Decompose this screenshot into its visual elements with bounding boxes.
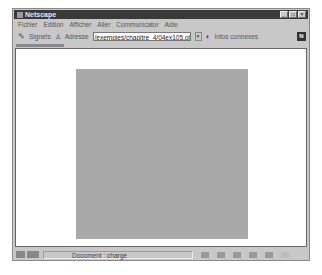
window-title: Netscape: [25, 11, 56, 18]
status-bar: Document : chargé: [14, 249, 308, 260]
menu-afficher[interactable]: Afficher: [69, 20, 91, 29]
status-text: Document : chargé: [43, 251, 193, 259]
connection-icon: [27, 251, 39, 258]
netscape-logo[interactable]: N: [297, 32, 306, 41]
maximize-button[interactable]: □: [289, 11, 297, 18]
menu-bar: Fichier Edition Afficher Aller Communica…: [14, 20, 308, 29]
composer-icon[interactable]: [265, 252, 273, 258]
menu-fichier[interactable]: Fichier: [18, 20, 38, 29]
bookmarks-icon[interactable]: ✎: [18, 32, 25, 41]
title-bar: Netscape _ □ ×: [14, 10, 308, 19]
location-toolbar: ✎ Signets ♙ Adresse /exemples/chapitre_4…: [14, 30, 308, 43]
menu-aller[interactable]: Aller: [97, 20, 110, 29]
mail-icon[interactable]: [233, 252, 241, 258]
address-label: Adresse: [65, 33, 89, 40]
menu-edition[interactable]: Edition: [44, 20, 64, 29]
close-button[interactable]: ×: [298, 11, 306, 18]
netscape-app-icon: [17, 12, 23, 18]
menu-aide[interactable]: Aide: [165, 20, 178, 29]
bookmarks-button[interactable]: Signets: [29, 33, 51, 40]
url-dropdown-button[interactable]: ▼: [195, 32, 202, 41]
menu-communicator[interactable]: Communicator: [116, 20, 158, 29]
navigator-icon[interactable]: [217, 252, 225, 258]
related-button[interactable]: Infos connexes: [214, 33, 258, 40]
toolbar-grip[interactable]: [16, 44, 64, 47]
related-icon[interactable]: ◐: [206, 32, 211, 41]
browser-window: Netscape _ □ × Fichier Edition Afficher …: [12, 8, 310, 261]
discussion-icon[interactable]: [249, 252, 257, 258]
url-input[interactable]: /exemples/chapitre_4/04ex105.php3: [93, 32, 191, 41]
address-icon: ♙: [55, 33, 61, 41]
security-lock-icon[interactable]: [16, 251, 25, 258]
minimize-button[interactable]: _: [280, 11, 288, 18]
tray-icon-1[interactable]: [201, 252, 209, 258]
resize-grip-icon[interactable]: [281, 252, 289, 258]
page-content: [15, 48, 307, 247]
gray-square: [76, 69, 248, 239]
